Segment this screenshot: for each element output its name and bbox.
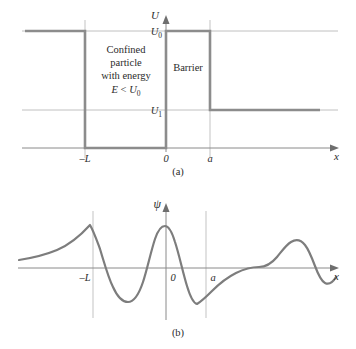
physics-figure: U x U0 U1 –L 0 a Confined particle with … [0, 0, 356, 349]
potential-curve [25, 31, 320, 148]
panel-a-potential-diagram: U x U0 U1 –L 0 a Confined particle with … [0, 0, 356, 185]
y-axis-label-b: ψ [154, 197, 162, 211]
level-label-u0: U0 [151, 26, 163, 40]
x-tick-label-zero-a: 0 [163, 153, 169, 164]
well-annotation: Confined particle with energy E < U0 [101, 44, 151, 98]
y-axis-label-a: U [151, 9, 160, 21]
x-tick-label-a-a: a [207, 153, 212, 164]
panel-a-caption: (a) [172, 166, 184, 178]
x-tick-label-minus-L-b: –L [78, 272, 90, 283]
panel-b-caption: (b) [172, 327, 185, 339]
barrier-annotation: Barrier [173, 62, 203, 73]
y-axis-arrow-b [163, 203, 170, 212]
well-annotation-line3: with energy [101, 70, 151, 81]
x-tick-label-zero-b: 0 [170, 272, 176, 283]
x-tick-label-a-b: a [210, 272, 215, 283]
well-annotation-energy-condition: E < U0 [111, 84, 141, 98]
x-axis-label-a: x [333, 150, 339, 162]
panel-b-wavefunction-diagram: ψ x –L 0 a (b) [0, 184, 356, 349]
wave-curve-final [19, 225, 336, 304]
y-axis-arrow-a [163, 15, 170, 24]
x-tick-label-minus-L-a: –L [78, 153, 90, 164]
well-annotation-line2: particle [110, 57, 142, 68]
level-label-u1: U1 [151, 105, 163, 119]
x-axis-label-b: x [333, 270, 339, 282]
well-annotation-line1: Confined [106, 44, 146, 55]
